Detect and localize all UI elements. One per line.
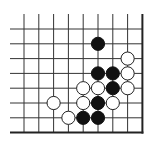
stones-layer <box>47 37 134 124</box>
black-stone <box>77 111 90 124</box>
white-stone <box>77 96 90 109</box>
white-stone <box>121 67 134 80</box>
white-stone <box>106 96 119 109</box>
white-stone <box>62 111 75 124</box>
go-board <box>0 0 156 157</box>
black-stone <box>91 111 104 124</box>
black-stone <box>106 82 119 95</box>
black-stone <box>106 67 119 80</box>
white-stone <box>47 96 60 109</box>
white-stone <box>121 82 134 95</box>
white-stone <box>77 82 90 95</box>
white-stone <box>121 52 134 65</box>
black-stone <box>91 67 104 80</box>
black-stone <box>91 96 104 109</box>
white-stone <box>91 82 104 95</box>
black-stone <box>91 37 104 50</box>
